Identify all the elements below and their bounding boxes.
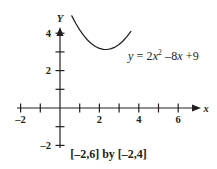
equation-var-x2: x <box>177 49 182 63</box>
equation-annotation: y = 2x2 –8x +9 <box>128 49 199 64</box>
equation-exponent: 2 <box>158 48 162 57</box>
graph-figure: –2 2 4 6 4 2 –2 Y x y = 2x2 –8x +9 [–2,6… <box>0 0 217 169</box>
x-axis-arrowhead <box>192 104 201 111</box>
equation-lhs: y <box>128 49 133 63</box>
y-axis-label: Y <box>57 13 65 24</box>
coordinate-plane: –2 2 4 6 4 2 –2 Y x <box>0 0 217 169</box>
x-tick-label-neg2: –2 <box>14 114 26 125</box>
x-tick-label-2: 2 <box>97 114 102 125</box>
equation-equals: = <box>137 49 144 63</box>
y-tick-label-2: 2 <box>46 65 51 76</box>
y-axis-arrowhead <box>56 27 63 36</box>
x-tick-label-6: 6 <box>176 114 181 125</box>
x-tick-label-4: 4 <box>136 114 142 125</box>
parabola-curve <box>72 16 131 50</box>
viewing-window-caption: [–2,6] by [–2,4] <box>0 147 217 162</box>
equation-constant: 9 <box>193 49 199 63</box>
y-tick-label-4: 4 <box>46 28 52 39</box>
equation-plus: + <box>186 49 193 63</box>
x-axis-label: x <box>202 103 208 114</box>
